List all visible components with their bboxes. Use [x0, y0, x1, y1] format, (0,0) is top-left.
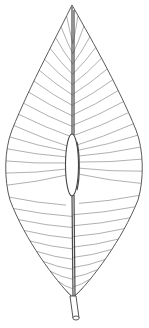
leaf-vein — [50, 48, 73, 74]
leaf-vein — [56, 38, 73, 65]
leaf-vein — [29, 92, 73, 116]
leaf-vein — [73, 58, 102, 84]
leaf-vein — [73, 48, 96, 74]
midrib-swelling — [66, 134, 79, 196]
petiole-end — [73, 316, 79, 320]
leaf-vein — [10, 137, 66, 151]
leaf-vein — [79, 135, 138, 150]
leaf-vein — [73, 91, 118, 115]
leaf-vein — [45, 59, 73, 85]
leaf-vein — [7, 175, 66, 185]
leaf-vein — [6, 161, 66, 163]
leaf-illustration — [0, 0, 149, 328]
leaf-vein — [73, 239, 118, 247]
leaf-vein — [7, 149, 66, 157]
leaf-vein — [73, 124, 134, 147]
leaf-vein — [73, 69, 107, 94]
leaf-vein — [9, 197, 66, 205]
leaf-vein — [6, 169, 66, 173]
leaf-vein — [34, 81, 73, 106]
leaf-vein — [79, 159, 142, 162]
leaf-vein — [58, 281, 73, 289]
leaf-vein — [73, 80, 113, 105]
leaf-vein — [19, 114, 73, 137]
petiole — [70, 296, 79, 318]
leaf-vein — [39, 70, 73, 95]
leaf-vein — [30, 241, 73, 249]
leaf-vein — [37, 251, 74, 259]
leaf-vein — [73, 207, 135, 215]
leaf-vein — [73, 37, 90, 64]
leaf-vein — [79, 174, 141, 183]
leaf-vein — [73, 102, 124, 126]
leaf-vein — [73, 113, 129, 136]
leaf-vein — [24, 103, 74, 127]
leaf-vein — [19, 220, 74, 228]
leaf-vein — [73, 249, 112, 257]
leaf-vein — [73, 218, 130, 226]
leaf-drawing — [0, 0, 149, 328]
leaf-vein — [13, 209, 73, 217]
leaf-vein — [79, 168, 142, 171]
leaf-vein — [24, 230, 73, 238]
leaf-vein — [79, 195, 139, 203]
leaf-vein — [73, 229, 124, 237]
leaf-vein — [73, 269, 98, 277]
leaf-vein — [14, 126, 73, 148]
